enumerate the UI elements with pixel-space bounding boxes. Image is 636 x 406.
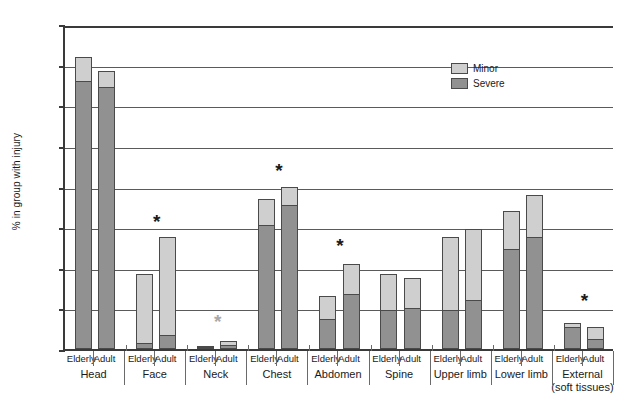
- bar-external-adult: [587, 327, 604, 349]
- sublabel-separator: [276, 351, 277, 366]
- y-tick-mark-10: [59, 309, 65, 311]
- gridline-70: [65, 67, 613, 68]
- bar-spine-elderly: [380, 274, 397, 349]
- bar-severe-segment: [564, 327, 581, 349]
- x-axis: ElderlyAdultHeadElderlyAdultFaceElderlyA…: [63, 351, 613, 406]
- gridline-40: [65, 189, 613, 190]
- significance-star-neck: *: [214, 311, 221, 330]
- gridline-80: [65, 26, 613, 28]
- bar-lower-limb-elderly: [503, 211, 520, 349]
- bar-head-adult: [98, 71, 115, 349]
- significance-star-face: *: [153, 212, 160, 231]
- group-label-separator: [430, 351, 431, 385]
- gridline-50: [65, 148, 613, 149]
- bar-severe-segment: [159, 335, 176, 349]
- gridline-60: [65, 107, 613, 108]
- y-axis-title: % in group with injury: [11, 92, 22, 272]
- bar-face-elderly: [136, 274, 153, 349]
- bar-severe-segment: [465, 300, 482, 349]
- legend-swatch-severe-icon: [451, 78, 468, 89]
- bar-severe-segment: [343, 294, 360, 349]
- bar-severe-segment: [136, 343, 153, 349]
- bar-chest-adult: [281, 187, 298, 350]
- bar-neck-elderly: [197, 346, 214, 349]
- bar-severe-segment: [526, 237, 543, 349]
- legend-label-severe: Severe: [473, 77, 505, 90]
- bar-lower-limb-adult: [526, 195, 543, 349]
- sublabel-separator: [154, 351, 155, 366]
- bar-severe-segment: [380, 310, 397, 349]
- plot-area: 0%10%20%30%40%50%60%70%80%*****: [63, 26, 613, 351]
- significance-star-chest: *: [275, 161, 282, 180]
- legend-item-severe: Severe: [451, 77, 505, 90]
- bar-severe-segment: [587, 339, 604, 349]
- group-label-separator: [185, 351, 186, 385]
- x-group-label-external: External(soft tissues): [521, 368, 636, 394]
- y-tick-mark-70: [59, 66, 65, 68]
- bar-severe-segment: [197, 347, 214, 349]
- group-label-separator: [613, 351, 614, 385]
- y-tick-mark-30: [59, 228, 65, 230]
- bar-severe-segment: [75, 81, 92, 349]
- sublabel-separator: [93, 351, 94, 366]
- bar-severe-segment: [258, 225, 275, 349]
- bar-spine-adult: [404, 278, 421, 349]
- bar-severe-segment: [404, 308, 421, 349]
- bar-face-adult: [159, 237, 176, 349]
- sublabel-separator: [337, 351, 338, 366]
- group-label-separator: [307, 351, 308, 385]
- bar-head-elderly: [75, 57, 92, 350]
- group-label-separator: [246, 351, 247, 385]
- y-tick-mark-50: [59, 147, 65, 149]
- bar-severe-segment: [220, 345, 237, 349]
- y-tick-mark-20: [59, 269, 65, 271]
- bar-upper-limb-adult: [465, 229, 482, 349]
- group-label-separator: [491, 351, 492, 385]
- injury-distribution-chart: % in group with injury 0%10%20%30%40%50%…: [0, 0, 636, 406]
- y-tick-mark-60: [59, 106, 65, 108]
- legend-swatch-minor-icon: [451, 63, 468, 74]
- y-tick-mark-80: [59, 25, 65, 27]
- sublabel-separator: [582, 351, 583, 366]
- chart-legend: Minor Severe: [451, 62, 505, 92]
- sublabel-separator: [460, 351, 461, 366]
- bar-chest-elderly: [258, 199, 275, 349]
- group-label-separator: [552, 351, 553, 385]
- bar-neck-adult: [220, 341, 237, 349]
- sublabel-separator: [215, 351, 216, 366]
- bar-severe-segment: [98, 87, 115, 349]
- group-label-separator: [124, 351, 125, 385]
- legend-item-minor: Minor: [451, 62, 505, 75]
- bar-severe-segment: [442, 310, 459, 349]
- bar-severe-segment: [319, 319, 336, 349]
- significance-star-abdomen: *: [336, 236, 343, 255]
- bar-external-elderly: [564, 323, 581, 349]
- bar-severe-segment: [503, 249, 520, 349]
- group-label-separator: [369, 351, 370, 385]
- x-group-label-line2: (soft tissues): [521, 381, 636, 394]
- bar-upper-limb-elderly: [442, 237, 459, 349]
- bar-abdomen-elderly: [319, 296, 336, 349]
- sublabel-separator: [521, 351, 522, 366]
- bar-severe-segment: [281, 205, 298, 349]
- y-tick-mark-40: [59, 188, 65, 190]
- legend-label-minor: Minor: [473, 62, 498, 75]
- sublabel-separator: [399, 351, 400, 366]
- significance-star-external: *: [581, 291, 588, 310]
- bar-abdomen-adult: [343, 264, 360, 349]
